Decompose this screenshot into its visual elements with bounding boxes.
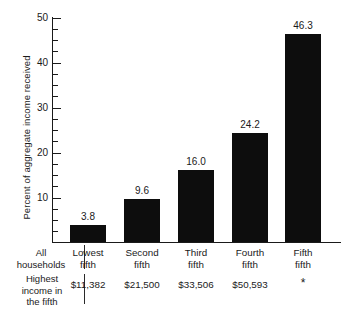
col4-line2: fifth: [273, 259, 333, 271]
y-minor-tick: [53, 164, 58, 165]
bar-value-lowest-fifth: 3.8: [58, 211, 118, 222]
col0-line2: fifth: [58, 259, 118, 271]
y-minor-tick: [53, 209, 58, 210]
y-tick-40: [53, 63, 61, 64]
y-minor-tick: [53, 186, 58, 187]
bar-value-second-fifth: 9.6: [112, 185, 172, 196]
col3-line1: Fourth: [220, 247, 280, 259]
bar-value-fourth-fifth: 24.2: [220, 119, 280, 130]
table-col-label-fourth-fifth: Fourth fifth: [220, 247, 280, 271]
income-distribution-figure: Percent of aggregate income received 50 …: [0, 0, 344, 317]
bar-value-fifth-fifth: 46.3: [273, 20, 333, 31]
col4-line1: Fifth: [273, 247, 333, 259]
y-tick-label-10: 10: [22, 192, 48, 203]
table-col-label-lowest-fifth: Lowest fifth: [58, 247, 118, 271]
table-value-fourth-fifth: $50,593: [220, 279, 280, 290]
y-minor-tick: [53, 130, 58, 131]
col1-line2: fifth: [112, 259, 172, 271]
y-minor-tick: [53, 74, 58, 75]
bar-third-fifth: [178, 170, 214, 242]
y-minor-tick: [53, 29, 58, 30]
y-minor-tick: [53, 175, 58, 176]
col2-line1: Third: [166, 247, 226, 259]
row2-header-line3: the fifth: [4, 296, 80, 308]
y-tick-20: [53, 153, 61, 154]
table-value-third-fifth: $33,506: [166, 279, 226, 290]
bar-fourth-fifth: [232, 133, 268, 242]
bar-value-third-fifth: 16.0: [166, 156, 226, 167]
col3-line2: fifth: [220, 259, 280, 271]
table-col-label-third-fifth: Third fifth: [166, 247, 226, 271]
col1-line1: Second: [112, 247, 172, 259]
y-tick-label-40: 40: [22, 57, 48, 68]
y-minor-tick: [53, 85, 58, 86]
y-tick-30: [53, 108, 61, 109]
y-tick-label-50: 50: [22, 12, 48, 23]
table-value-second-fifth: $21,500: [112, 279, 172, 290]
y-minor-tick: [53, 231, 58, 232]
table-col-label-second-fifth: Second fifth: [112, 247, 172, 271]
y-tick-10: [53, 198, 61, 199]
y-minor-tick: [53, 119, 58, 120]
y-minor-tick: [53, 141, 58, 142]
bar-fifth-fifth: [285, 34, 321, 242]
y-minor-tick: [53, 51, 58, 52]
bar-lowest-fifth: [70, 225, 106, 242]
table-value-lowest-fifth: $11,382: [58, 279, 118, 290]
col0-line1: Lowest: [58, 247, 118, 259]
income-table: All households Highest income in the fif…: [0, 245, 344, 317]
table-value-fifth-fifth: *: [273, 279, 333, 287]
y-minor-tick: [53, 40, 58, 41]
y-tick-label-30: 30: [22, 102, 48, 113]
y-minor-tick: [53, 96, 58, 97]
col2-line2: fifth: [166, 259, 226, 271]
y-tick-50: [53, 18, 61, 19]
y-tick-label-20: 20: [22, 147, 48, 158]
y-minor-tick: [53, 220, 58, 221]
table-col-label-fifth-fifth: Fifth fifth: [273, 247, 333, 271]
x-axis-line: [52, 242, 341, 243]
bar-second-fifth: [124, 199, 160, 242]
